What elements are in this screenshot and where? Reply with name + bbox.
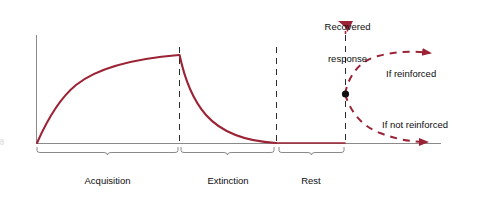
y-axis-title: Performance <box>0 22 34 102</box>
bracket-label-acquisition-line1: Acquisition <box>36 176 179 187</box>
if-not-reinforced-branch <box>345 94 427 142</box>
label-if-reinforced: If reinforced <box>386 69 436 80</box>
page-edge-artifact: 8 <box>0 138 10 162</box>
acquisition-curve <box>37 55 179 143</box>
bracket-label-rest-line1: Rest <box>272 176 350 187</box>
bracket-rest <box>279 147 344 155</box>
bracket-label-extinction-line1: Extinction <box>180 176 276 187</box>
extinction-curve <box>180 55 276 143</box>
recovered-response-label: Recovered response <box>300 1 395 86</box>
bracket-label-acquisition: Acquisition (response is reinforced) <box>36 155 179 201</box>
bracket-label-rest: Rest (no responding) <box>272 155 350 201</box>
bracket-acquisition <box>37 147 178 155</box>
label-if-not-reinforced: If not reinforced <box>382 120 448 131</box>
recovered-response-dot <box>342 90 349 97</box>
performance-curve-group <box>37 55 345 143</box>
bracket-label-extinction: Extinction (response is not reinforced) <box>180 155 276 201</box>
phase-brackets-group <box>37 147 344 155</box>
bracket-extinction <box>181 147 274 155</box>
learning-curve-figure: Performance Acquisition (response is rei… <box>0 0 481 201</box>
recovered-response-label-line2: response <box>300 54 395 65</box>
recovered-response-label-line1: Recovered <box>300 22 395 33</box>
